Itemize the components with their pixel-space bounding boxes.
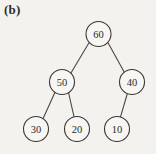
node-label-60: 60 bbox=[93, 29, 104, 40]
tree-node-20: 20 bbox=[65, 117, 90, 142]
edge-40-10 bbox=[121, 93, 128, 117]
tree-node-60: 60 bbox=[86, 22, 111, 47]
edge-60-50 bbox=[71, 43, 89, 74]
node-label-10: 10 bbox=[112, 124, 123, 135]
edge-50-20 bbox=[69, 93, 75, 117]
figure-binary-tree: (b) 60 50 40 30 bbox=[0, 0, 156, 154]
tree-node-50: 50 bbox=[50, 70, 75, 95]
node-label-20: 20 bbox=[72, 124, 83, 135]
tree-node-10: 10 bbox=[105, 117, 130, 142]
tree-nodes: 60 50 40 30 20 10 bbox=[24, 22, 145, 142]
tree-node-30: 30 bbox=[24, 117, 49, 142]
binary-tree-graphic: 60 50 40 30 20 10 bbox=[0, 0, 156, 154]
node-label-30: 30 bbox=[31, 124, 42, 135]
tree-node-40: 40 bbox=[120, 70, 145, 95]
edge-60-40 bbox=[108, 43, 125, 73]
edge-50-30 bbox=[43, 92, 55, 119]
node-label-40: 40 bbox=[127, 77, 138, 88]
node-label-50: 50 bbox=[57, 77, 68, 88]
